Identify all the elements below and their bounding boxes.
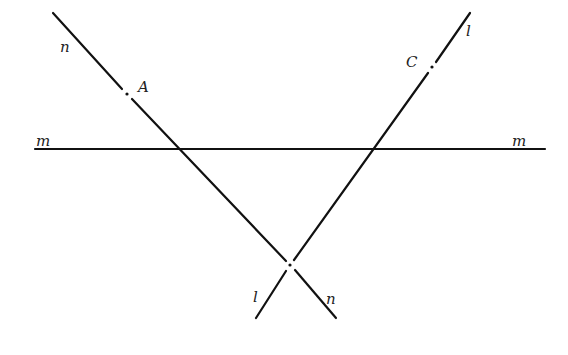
line-n-segment: [132, 99, 286, 261]
line-l-segment: [256, 271, 286, 318]
line-l-label: l: [253, 288, 258, 306]
line-l-segment: [436, 13, 470, 62]
geometry-figure: mmnnllAC: [0, 0, 568, 355]
point-c: [430, 65, 433, 68]
line-m-label: m: [512, 132, 526, 150]
line-l-segment: [294, 73, 428, 260]
point-a: [125, 92, 128, 95]
line-m-label: m: [36, 132, 50, 150]
point-a-label: A: [136, 78, 149, 96]
line-n-label: n: [60, 38, 70, 56]
line-n-label: n: [326, 290, 336, 308]
point-intersection_l_n: [288, 263, 291, 266]
line-l-label: l: [466, 22, 471, 40]
point-c-label: C: [406, 53, 418, 71]
